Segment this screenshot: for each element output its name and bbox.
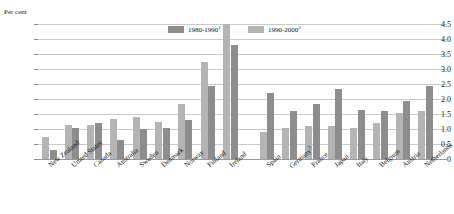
- bar-1990-2000: [260, 132, 267, 159]
- bar-1990-2000: [201, 62, 208, 160]
- bar-1980-1990: [185, 120, 192, 159]
- legend-item-1990-2000: 1990-20002: [248, 25, 301, 34]
- legend-label-1980-1990: 1980-19901: [188, 25, 221, 34]
- bar-1980-1990: [381, 111, 388, 159]
- legend-swatch-1980-1990: [168, 26, 184, 33]
- bar-1990-2000: [42, 137, 49, 160]
- legend-swatch-1990-2000: [248, 26, 264, 33]
- bar-1990-2000: [282, 128, 289, 160]
- legend-label-1990-2000: 1990-20002: [268, 25, 301, 34]
- bar-1990-2000: [223, 24, 230, 159]
- bar-1980-1990: [426, 86, 433, 160]
- bar-1980-1990: [267, 93, 274, 159]
- plot-area: [38, 0, 447, 214]
- bar-1980-1990: [403, 101, 410, 160]
- bar-1990-2000: [328, 126, 335, 159]
- y-axis: [0, 0, 36, 214]
- bar-1990-2000: [373, 123, 380, 159]
- legend-footnote: 1: [218, 25, 221, 30]
- bar-1980-1990: [231, 45, 238, 159]
- bar-1980-1990: [290, 111, 297, 159]
- bar-1990-2000: [350, 128, 357, 160]
- bar-1980-1990: [335, 89, 342, 160]
- bar-1980-1990: [358, 110, 365, 160]
- legend-footnote: 2: [298, 25, 301, 30]
- bar-1980-1990: [208, 86, 215, 160]
- legend-item-1980-1990: 1980-19901: [168, 25, 221, 34]
